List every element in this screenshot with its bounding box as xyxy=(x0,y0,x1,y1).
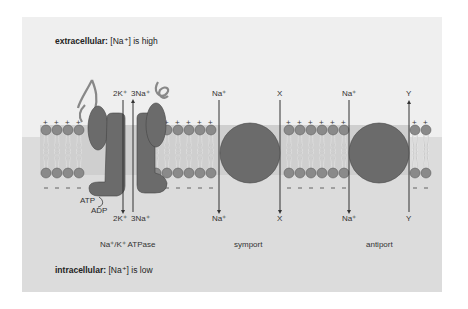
antiport-protein xyxy=(349,123,409,183)
svg-text:+: + xyxy=(208,118,213,127)
symport-top-x-label: X xyxy=(277,89,283,98)
svg-text:+: + xyxy=(412,118,417,127)
symport-name: symport xyxy=(234,240,263,249)
adp-label: ADP xyxy=(91,206,107,215)
svg-text:+: + xyxy=(319,118,324,127)
pump-bottom-k-label: 2K⁺ xyxy=(113,214,127,223)
pump-bottom-na-label: 3Na⁺ xyxy=(131,214,150,223)
svg-text:+: + xyxy=(423,118,428,127)
svg-text:+: + xyxy=(286,118,291,127)
symport-bottom-na-label: Na⁺ xyxy=(212,214,226,223)
svg-text:+: + xyxy=(43,118,48,127)
pump-top-k-label: 2K⁺ xyxy=(113,89,127,98)
svg-text:+: + xyxy=(175,118,180,127)
svg-text:+: + xyxy=(308,118,313,127)
antiport-bottom-y-label: Y xyxy=(406,214,412,223)
extracellular-label: extracellular: [Na⁺] is high xyxy=(55,36,158,46)
antiport-bottom-na-label: Na⁺ xyxy=(342,214,356,223)
svg-text:+: + xyxy=(297,118,302,127)
antiport-name: antiport xyxy=(366,240,393,249)
svg-text:+: + xyxy=(330,118,335,127)
intracellular-label: intracellular: [Na⁺] is low xyxy=(55,265,153,275)
svg-text:+: + xyxy=(65,118,70,127)
symport-protein xyxy=(220,123,280,183)
pump-top-na-label: 3Na⁺ xyxy=(131,89,150,98)
svg-text:+: + xyxy=(341,118,346,127)
pump-name: Na⁺/K⁺ ATPase xyxy=(100,240,156,249)
atp-label: ATP xyxy=(80,196,95,205)
membrane-transport-diagram: + + + + + + + + + + + + + + + + + + xyxy=(0,0,468,309)
antiport-top-na-label: Na⁺ xyxy=(342,89,356,98)
symport-top-na-label: Na⁺ xyxy=(212,89,226,98)
svg-text:+: + xyxy=(197,118,202,127)
svg-text:+: + xyxy=(186,118,191,127)
symport-bottom-x-label: X xyxy=(277,214,283,223)
antiport-top-y-label: Y xyxy=(406,89,412,98)
svg-text:+: + xyxy=(54,118,59,127)
